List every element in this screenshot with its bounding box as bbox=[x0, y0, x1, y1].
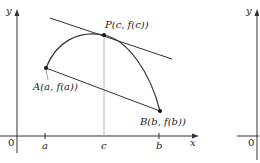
point-b bbox=[158, 109, 162, 113]
second-y-axis-arrow-icon bbox=[255, 9, 260, 16]
tick-label-b: b bbox=[156, 140, 162, 151]
point-a-label: A(a, f(a)) bbox=[32, 81, 78, 92]
point-a bbox=[44, 66, 48, 70]
curve-f bbox=[46, 34, 160, 111]
origin-label: 0 bbox=[8, 137, 14, 148]
y-axis-arrow-icon bbox=[15, 9, 20, 16]
label-leader-a bbox=[46, 70, 48, 80]
point-p-label: P(c, f(c)) bbox=[104, 19, 149, 30]
point-p bbox=[102, 33, 106, 37]
mean-value-theorem-diagram: y x 0 a c b A(a, f(a)) P(c, f(c)) B(b, f… bbox=[0, 0, 259, 163]
point-b-label: B(b, f(b)) bbox=[139, 116, 186, 127]
x-axis-label: x bbox=[190, 137, 196, 148]
y-axis-label: y bbox=[5, 5, 12, 16]
tick-label-a: a bbox=[42, 140, 48, 151]
second-y-axis-label: y bbox=[245, 5, 252, 16]
tick-label-c: c bbox=[101, 140, 107, 151]
second-origin-label: 0 bbox=[248, 137, 254, 148]
main-axes bbox=[0, 9, 199, 153]
